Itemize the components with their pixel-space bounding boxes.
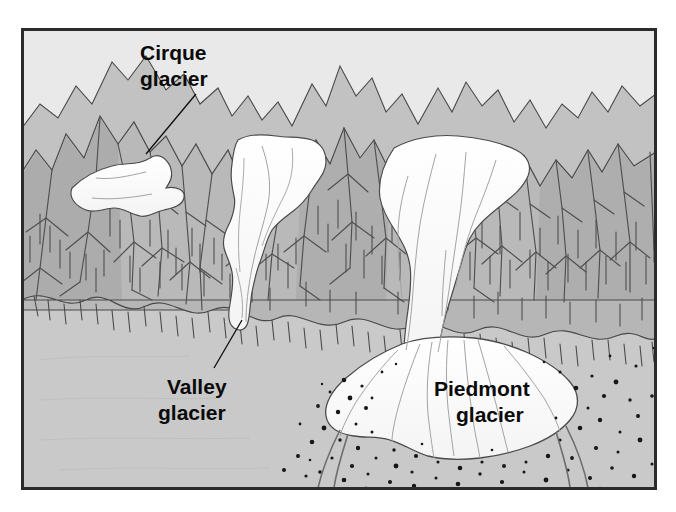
valley-label-line2: glacier — [158, 401, 226, 424]
glacier-diagram-canvas: Cirque glacier Valley glacier Piedmont g… — [0, 0, 676, 512]
cirque-label-line2: glacier — [140, 67, 208, 90]
cirque-label-line1: Cirque — [140, 41, 207, 64]
piedmont-label-line2: glacier — [456, 403, 524, 426]
piedmont-label-line1: Piedmont — [434, 377, 530, 400]
glacier-types-figure: Cirque glacier Valley glacier Piedmont g… — [0, 0, 676, 512]
diagram-content — [22, 29, 658, 492]
valley-label-line1: Valley — [167, 375, 227, 398]
